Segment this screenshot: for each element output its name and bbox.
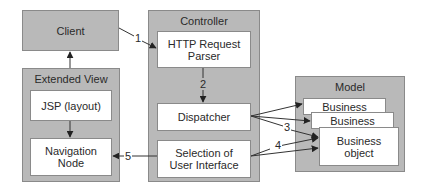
edge-label-4: 4 <box>274 140 282 151</box>
jsp-layout-label: JSP (layout) <box>41 100 101 112</box>
business-object-box: Business object <box>319 127 399 166</box>
edge-label-1: 1 <box>134 33 142 44</box>
edge-label-5: 5 <box>124 151 132 162</box>
arrow-1 <box>119 28 134 36</box>
dispatcher-label: Dispatcher <box>178 111 231 123</box>
model-title: Model <box>296 81 404 93</box>
dispatcher-box: Dispatcher <box>157 103 251 131</box>
extended-view-title: Extended View <box>23 73 119 85</box>
http-parser-line1: HTTP Request <box>168 38 241 50</box>
business-2-label: Business <box>330 115 375 127</box>
navigation-node-line1: Navigation <box>45 145 97 157</box>
client-node: Client <box>22 10 119 51</box>
client-label: Client <box>56 25 84 37</box>
selection-ui-box: Selection of User Interface <box>157 140 251 178</box>
navigation-node-line2: Node <box>58 157 84 169</box>
jsp-layout-box: JSP (layout) <box>30 90 112 121</box>
business-object-line2: object <box>344 147 373 159</box>
edge-label-3: 3 <box>283 122 291 133</box>
business-object-line1: Business <box>337 135 382 147</box>
controller-title: Controller <box>149 15 259 27</box>
http-parser-line2: Parser <box>188 50 220 62</box>
navigation-node-box: Navigation Node <box>30 138 112 176</box>
selection-ui-line1: Selection of <box>175 147 232 159</box>
http-request-parser-box: HTTP Request Parser <box>157 31 251 68</box>
edge-label-2: 2 <box>199 79 207 90</box>
selection-ui-line2: User Interface <box>169 159 238 171</box>
